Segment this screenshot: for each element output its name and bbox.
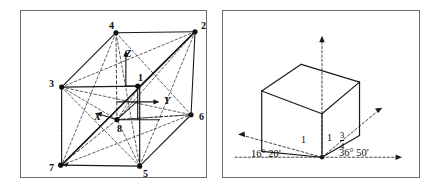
y-axis-label: Y — [164, 96, 170, 107]
vertex-label-8: 8 — [117, 124, 122, 134]
vertex-dot — [59, 85, 64, 90]
vertex-dot — [113, 30, 118, 35]
vertex-dot — [58, 163, 63, 168]
vertex-label-7: 7 — [49, 163, 54, 173]
edge-label-left: 1 — [301, 135, 306, 145]
vertex-label-1: 1 — [138, 73, 143, 83]
vertex-label-5: 5 — [143, 169, 148, 179]
upper-right-axis-arrowhead — [375, 108, 382, 113]
vertical-axis-arrowhead — [319, 36, 325, 42]
left-cube-svg — [21, 11, 206, 177]
angle-label-left: 16° 20′ — [251, 149, 281, 160]
x-axis-label: X — [94, 112, 101, 123]
upper-left-axis-arrowhead — [238, 131, 245, 137]
vertex-dot — [135, 84, 140, 89]
z-axis-label: Z — [125, 49, 131, 60]
fraction-numerator: 3 — [340, 131, 344, 140]
origin-dot — [320, 155, 324, 159]
vertex-label-6: 6 — [199, 112, 204, 122]
y-axis-arrowhead — [154, 99, 160, 104]
edge-label-middle: 1 — [327, 133, 332, 143]
vertex-label-4: 4 — [109, 21, 114, 31]
vertex-dot — [137, 164, 142, 169]
vertex-dot — [192, 29, 197, 34]
vertex-dot — [188, 112, 193, 117]
right-diagram-panel: 1 1 3 4 16° 20′ 36° 50′ — [222, 10, 420, 178]
vertex-label-3: 3 — [49, 79, 54, 89]
cube-edges — [262, 64, 360, 157]
angle-label-right: 36° 50′ — [339, 148, 369, 159]
left-diagram-panel: 4 2 3 1 6 8 7 5 Z Y X — [20, 10, 207, 178]
vertex-dot — [114, 117, 119, 122]
vertex-label-2: 2 — [201, 21, 206, 31]
horizontal-axis-arrowhead — [396, 154, 402, 160]
figure-root: 4 2 3 1 6 8 7 5 Z Y X — [0, 0, 440, 195]
